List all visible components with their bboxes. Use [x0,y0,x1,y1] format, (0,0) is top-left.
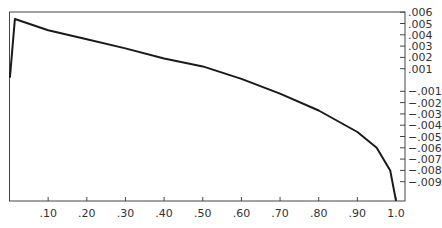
line-chart: .10.20.30.40.50.60.70.80.901.0 .006.005.… [0,0,442,228]
y-axis-ticks: .006.005.004.003.002.001−.001−.002−.003−… [400,6,442,189]
plot-frame [10,12,406,201]
x-tick-label: .90 [349,207,367,220]
x-tick-label: .50 [194,207,212,220]
x-tick-label: .10 [39,207,57,220]
x-tick-label: .40 [155,207,173,220]
x-tick-label: .70 [271,207,289,220]
y-tick-label: −.009 [408,176,442,189]
x-tick-label: .80 [310,207,328,220]
x-tick-label: .60 [233,207,251,220]
data-curve [10,19,396,201]
x-axis-ticks: .10.20.30.40.50.60.70.80.901.0 [39,197,404,220]
x-tick-label: .20 [78,207,96,220]
x-tick-label: .30 [117,207,135,220]
y-tick-label: .001 [408,63,433,76]
x-tick-label: 1.0 [387,207,405,220]
